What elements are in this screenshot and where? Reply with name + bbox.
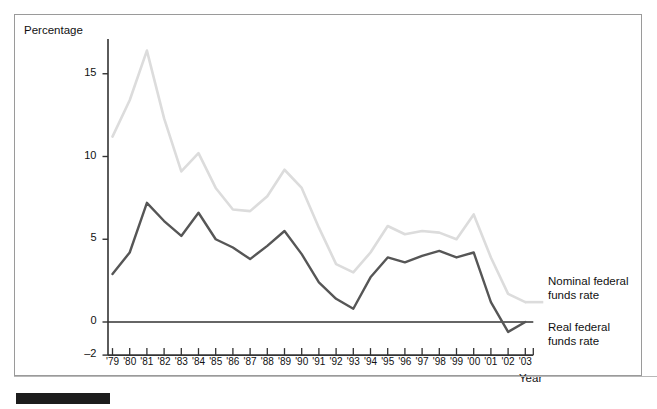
series-label-real-line1: Real federal xyxy=(548,320,610,334)
series-label-nominal-line1: Nominal federal xyxy=(548,274,629,288)
y-tick-label: –2 xyxy=(63,347,97,359)
footer-divider xyxy=(14,376,657,377)
y-axis-title: Percentage xyxy=(24,24,83,36)
x-axis-title: Year xyxy=(519,372,542,384)
y-tick-label: 15 xyxy=(63,66,97,78)
series-line-real xyxy=(113,203,526,332)
footer-black-bar xyxy=(16,393,110,404)
series-label-nominal: Nominal federal funds rate xyxy=(548,274,629,302)
x-tick-label: '03 xyxy=(514,356,536,367)
series-label-real-line2: funds rate xyxy=(548,334,610,348)
figure-container: Percentage Year 151050–2 '79'80'81'82'83… xyxy=(0,0,657,409)
series-label-real: Real federal funds rate xyxy=(548,320,610,348)
y-tick-label: 0 xyxy=(63,314,97,326)
series-line-nominal xyxy=(113,51,526,303)
y-tick-label: 10 xyxy=(63,149,97,161)
y-tick-label: 5 xyxy=(63,231,97,243)
series-label-nominal-line2: funds rate xyxy=(548,288,629,302)
